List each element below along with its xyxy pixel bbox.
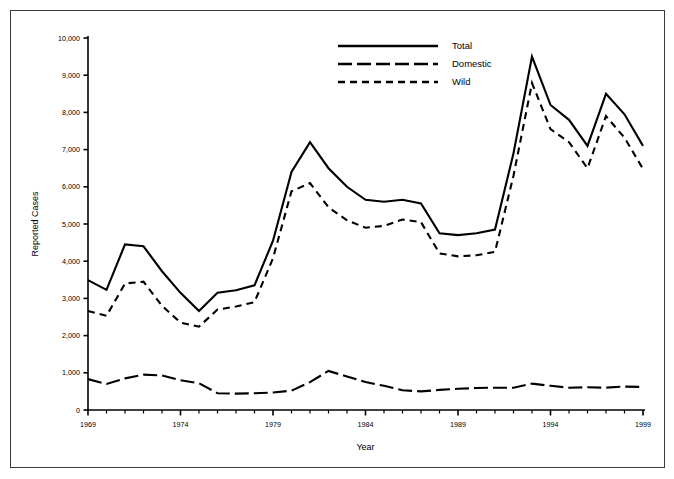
y-axis-tick-label: 10,000 [58, 34, 80, 43]
legend-label-total: Total [452, 40, 472, 51]
legend-label-domestic: Domestic [452, 58, 492, 69]
axes-layer [84, 36, 646, 416]
y-axis-tick-label: 5,000 [62, 220, 80, 229]
y-axis-tick-label: 0 [76, 406, 80, 415]
x-axis-tick-label: 1974 [173, 420, 189, 429]
x-axis-tick-label: 1999 [635, 420, 651, 429]
x-axis-tick-label: 1979 [265, 420, 281, 429]
x-axis-title: Year [356, 442, 374, 452]
series-line-wild [88, 83, 643, 327]
series-layer [88, 57, 643, 394]
chart-canvas: TotalDomesticWild 01,0002,0003,0004,0005… [0, 0, 674, 479]
y-axis-tick-label: 1,000 [62, 368, 80, 377]
y-axis-tick-label: 4,000 [62, 257, 80, 266]
y-axis-tick-label: 6,000 [62, 182, 80, 191]
x-axis-tick-label: 1994 [543, 420, 559, 429]
x-axis-tick-label: 1984 [358, 420, 374, 429]
legend-layer: TotalDomesticWild [338, 40, 492, 87]
series-line-domestic [88, 371, 643, 394]
labels-layer: 01,0002,0003,0004,0005,0006,0007,0008,00… [30, 34, 651, 452]
line-chart: TotalDomesticWild 01,0002,0003,0004,0005… [0, 0, 674, 479]
y-axis-tick-label: 3,000 [62, 294, 80, 303]
x-axis-tick-label: 1969 [80, 420, 96, 429]
legend-label-wild: Wild [452, 76, 470, 87]
y-axis-tick-label: 2,000 [62, 331, 80, 340]
y-axis-tick-label: 7,000 [62, 145, 80, 154]
x-axis-tick-label: 1989 [450, 420, 466, 429]
series-line-total [88, 57, 643, 311]
y-axis-tick-label: 8,000 [62, 108, 80, 117]
y-axis-title: Reported Cases [30, 191, 40, 257]
y-axis-tick-label: 9,000 [62, 71, 80, 80]
